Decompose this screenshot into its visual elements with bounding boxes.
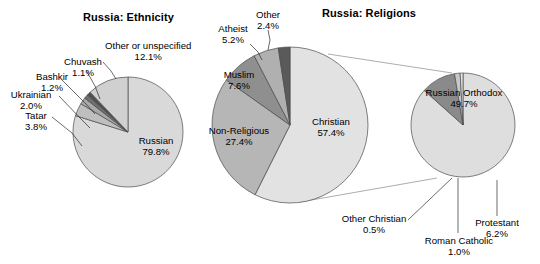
label-other-religion-text: Other [256, 9, 280, 20]
label-other-christian: Other Christian 0.5% [336, 214, 412, 235]
label-atheist-text: Atheist [218, 23, 247, 34]
label-non-religious-value: 27.4% [203, 137, 275, 148]
label-protestant-text: Protestant [475, 217, 519, 228]
label-roman-catholic: Roman Catholic 1.0% [420, 236, 498, 257]
label-other-religion: Other 2.4% [248, 10, 288, 31]
label-other-unspecified-value: 12.1% [105, 52, 191, 63]
label-christian: Christian 57.4% [306, 117, 356, 138]
connector-upper [328, 54, 452, 73]
label-russian-orthodox: Russian Orthodox 49.7% [420, 88, 508, 109]
label-russian: Russian 79.8% [130, 136, 182, 157]
label-bashkir-text: Bashkir [36, 71, 68, 82]
label-ukrainian: Ukrainian 2.0% [2, 90, 60, 111]
label-roman-catholic-text: Roman Catholic [425, 235, 493, 246]
label-other-unspecified: Other or unspecified 12.1% [105, 41, 191, 62]
label-other-christian-text: Other Christian [342, 213, 407, 224]
label-atheist: Atheist 5.2% [212, 24, 254, 45]
label-muslim-text: Muslim [224, 69, 254, 80]
label-non-religious-text: Non-Religious [209, 125, 269, 136]
label-muslim: Muslim 7.6% [218, 70, 260, 91]
label-tatar-text: Tatar [25, 110, 46, 121]
label-muslim-value: 7.6% [218, 81, 260, 92]
label-other-unspecified-text: Other or unspecified [105, 40, 191, 51]
label-russian-value: 79.8% [130, 147, 182, 158]
label-russian-orthodox-text: Russian Orthodox [426, 87, 503, 98]
label-tatar: Tatar 3.8% [16, 111, 56, 132]
label-atheist-value: 5.2% [212, 35, 254, 46]
label-christian-value: 57.4% [306, 128, 356, 139]
label-roman-catholic-value: 1.0% [420, 247, 498, 258]
label-ukrainian-text: Ukrainian [11, 89, 52, 100]
leader-other-christian [408, 178, 452, 220]
figure-root: Russia: Ethnicity Russia: Religions [0, 0, 540, 264]
label-christian-text: Christian [312, 116, 350, 127]
label-chuvash-text: Chuvash [64, 56, 102, 67]
label-russian-orthodox-value: 49.7% [420, 99, 508, 110]
label-russian-text: Russian [139, 135, 174, 146]
label-other-christian-value: 0.5% [336, 225, 412, 236]
label-non-religious: Non-Religious 27.4% [203, 126, 275, 147]
label-tatar-value: 3.8% [16, 122, 56, 133]
pie-ethnicity [73, 77, 183, 187]
label-other-religion-value: 2.4% [248, 21, 288, 32]
leader-other-religion [268, 30, 270, 50]
